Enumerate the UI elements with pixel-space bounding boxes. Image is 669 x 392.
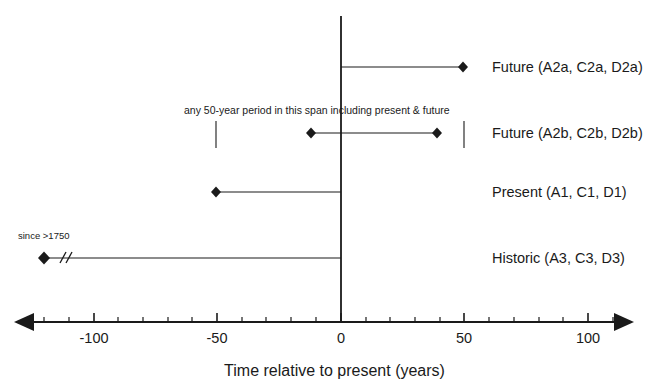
series-label-future-a2a: Future (A2a, C2a, D2a) (492, 60, 643, 75)
series-label-future-a2b: Future (A2b, C2b, D2b) (492, 126, 643, 141)
start-diamond-marker-historic-a3 (38, 252, 50, 265)
end-diamond-marker-future-a2a (458, 62, 468, 73)
end-diamond-marker-future-a2b (432, 128, 442, 139)
series-row-present-a1 (211, 187, 341, 198)
x-axis-arrow-left-icon (14, 313, 34, 331)
start-diamond-marker-present-a1 (211, 187, 221, 198)
x-axis-title: Time relative to present (years) (0, 363, 669, 379)
series-row-historic-a3 (38, 252, 341, 265)
x-axis (14, 313, 634, 331)
start-diamond-marker-future-a2b (306, 128, 316, 139)
x-tick-label-minus-50: -50 (177, 331, 257, 346)
x-tick-label-minus-100: -100 (54, 331, 134, 346)
series-label-historic-a3: Historic (A3, C3, D3) (492, 251, 625, 266)
timeline-figure: Future (A2a, C2a, D2a) Future (A2b, C2b,… (0, 0, 669, 392)
since-annotation-note: since >1750 (18, 231, 70, 241)
x-tick-label-50: 50 (424, 331, 504, 346)
series-row-future-a2a (341, 62, 468, 73)
x-tick-label-100: 100 (548, 331, 628, 346)
series-row-future-a2b (216, 121, 464, 148)
span-annotation-note: any 50-year period in this span includin… (184, 105, 450, 116)
x-tick-label-zero: 0 (301, 331, 381, 346)
x-axis-arrow-right-icon (614, 313, 634, 331)
series-label-present-a1: Present (A1, C1, D1) (492, 185, 627, 200)
